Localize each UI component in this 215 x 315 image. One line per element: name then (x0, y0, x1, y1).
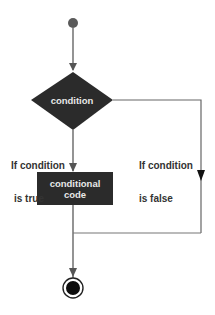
true-branch-label-line2: is true (11, 193, 65, 204)
arrowhead-icon (197, 170, 205, 181)
false-branch-label-line1: If condition (139, 160, 193, 171)
arrowhead-icon (69, 163, 77, 172)
decision-label: condition (31, 95, 113, 106)
end-node-inner-icon (66, 281, 80, 295)
arrowhead-icon (69, 268, 77, 277)
true-branch-label: If condition is true (11, 138, 65, 215)
start-node-icon (68, 18, 78, 28)
true-branch-label-line1: If condition (11, 160, 65, 171)
false-branch-label-line2: is false (139, 193, 193, 204)
arrowhead-icon (69, 63, 77, 71)
false-branch-label: If condition is false (139, 138, 193, 215)
